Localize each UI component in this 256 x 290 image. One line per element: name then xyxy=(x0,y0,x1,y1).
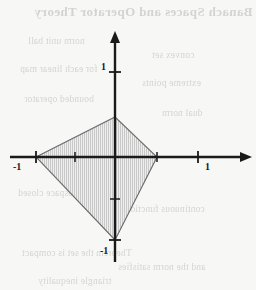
x-tick-label-neg1: -1 xyxy=(13,161,21,172)
quadrilateral-region xyxy=(36,117,157,240)
y-tick-label-neg1: -1 xyxy=(100,245,108,256)
x-axis-arrowhead xyxy=(240,152,252,162)
figure-root: Banach Spaces and Operator Theory norm u… xyxy=(0,0,256,290)
y-axis-arrowhead xyxy=(110,31,120,43)
plot-canvas: -1 1 1 -1 xyxy=(0,0,256,290)
x-tick-label-pos1: 1 xyxy=(205,161,210,172)
y-tick-label-pos1: 1 xyxy=(101,61,106,72)
